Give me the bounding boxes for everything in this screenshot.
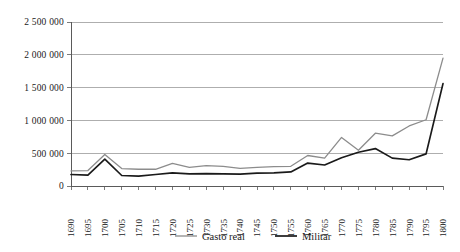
- x-tick-label: 1695: [83, 219, 93, 238]
- chart-figure: 0500 0001 000 0001 500 0002 000 0002 500…: [0, 0, 460, 252]
- x-tick-label: 1780: [371, 219, 381, 238]
- x-tick-label: 1690: [66, 219, 76, 238]
- line-chart: 0500 0001 000 0001 500 0002 000 0002 500…: [0, 0, 460, 252]
- y-tick-label: 500 000: [32, 149, 64, 159]
- y-tick-label: 0: [59, 181, 64, 191]
- x-tick-label: 1800: [438, 219, 448, 238]
- x-tick-label: 1745: [252, 219, 262, 238]
- x-tick-label: 1715: [151, 219, 161, 238]
- x-tick-label: 1725: [185, 219, 195, 238]
- x-tick-label: 1705: [117, 219, 127, 238]
- y-tick-label: 2 000 000: [24, 50, 64, 60]
- legend-label-militar: Militar: [302, 231, 332, 242]
- x-tick-label: 1750: [269, 219, 279, 238]
- y-tick-label: 1 000 000: [24, 116, 64, 126]
- legend-label-gasto-real: Gasto real: [202, 231, 245, 242]
- x-tick-label: 1755: [286, 219, 296, 238]
- x-tick-label: 1700: [100, 219, 110, 238]
- x-tick-label: 1775: [354, 219, 364, 238]
- x-tick-label: 1790: [405, 219, 415, 238]
- chart-background: [0, 0, 460, 252]
- x-tick-label: 1770: [337, 219, 347, 238]
- x-tick-label: 1720: [168, 219, 178, 238]
- x-tick-label: 1795: [421, 219, 431, 238]
- y-tick-label: 2 500 000: [24, 17, 64, 27]
- x-tick-label: 1785: [388, 219, 398, 238]
- y-tick-label: 1 500 000: [24, 83, 64, 93]
- x-axis-labels-group: 1690169517001705171017151720172517301735…: [66, 219, 448, 238]
- x-tick-label: 1710: [134, 219, 144, 238]
